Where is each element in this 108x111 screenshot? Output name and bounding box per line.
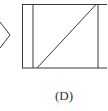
outer-rectangle (23, 5, 108, 69)
figure-label: (D) (44, 88, 84, 104)
left-chevron-shape (0, 22, 10, 48)
diagonal-line (37, 5, 96, 69)
